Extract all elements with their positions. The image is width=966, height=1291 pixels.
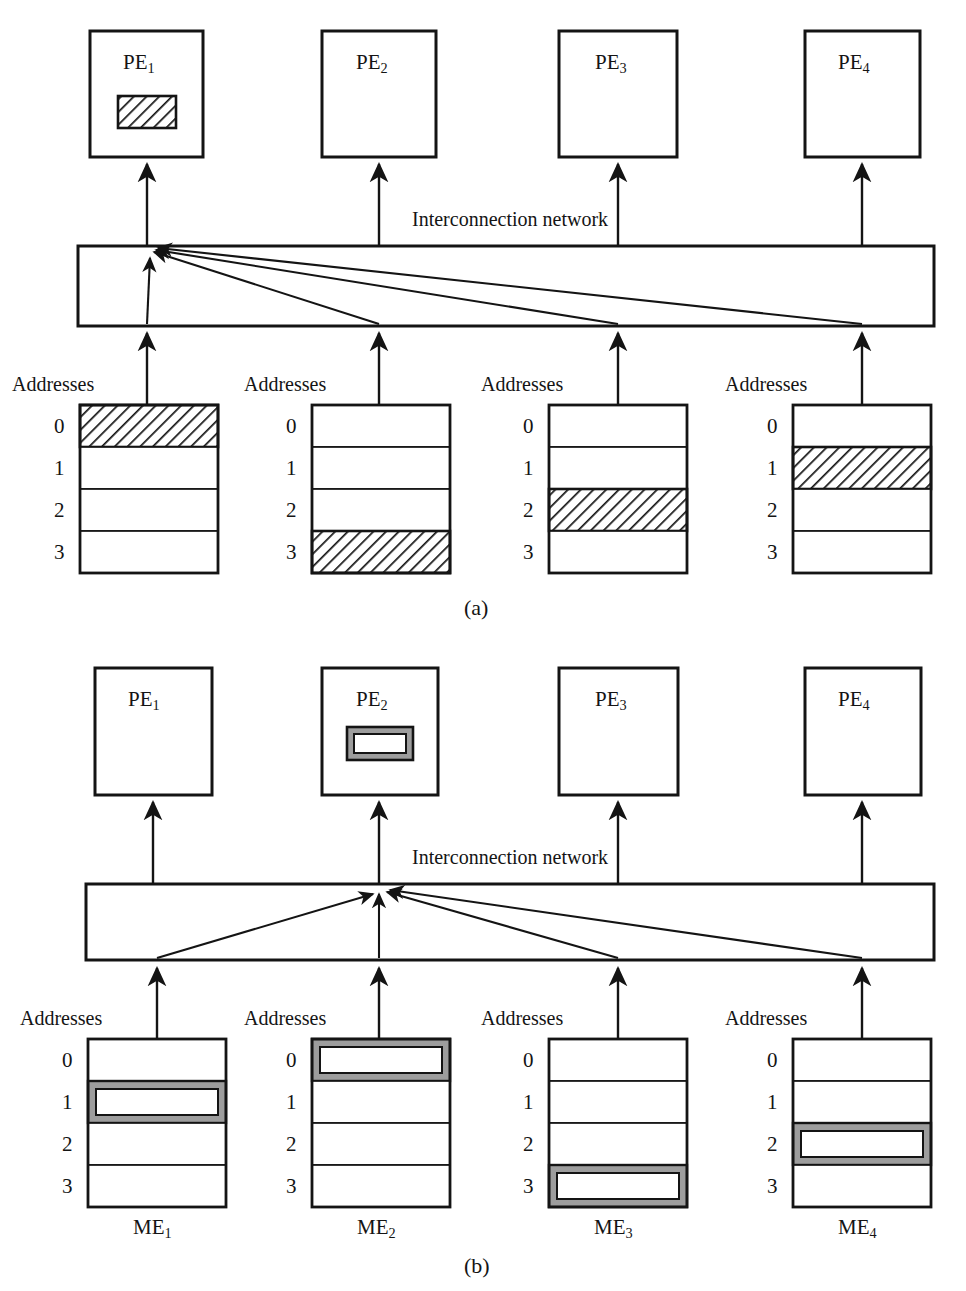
memory-row-a-1-3 <box>80 531 218 573</box>
pe-highlight-block-1 <box>118 96 176 128</box>
memory-module-b-2 <box>312 1039 450 1207</box>
memory-row-b-1-0 <box>88 1039 226 1081</box>
memory-row-a-2-0 <box>312 405 450 447</box>
memory-row-a-1-1 <box>80 447 218 489</box>
memory-row-b-2-2 <box>312 1123 450 1165</box>
pe-box-2 <box>322 31 436 157</box>
memory-row-b-4-2-inner <box>801 1131 923 1157</box>
memory-row-b-2-1 <box>312 1081 450 1123</box>
panel-b <box>86 668 934 1207</box>
pe-box-b-3 <box>559 668 678 795</box>
memory-row-b-4-3 <box>793 1165 931 1207</box>
memory-row-b-3-2 <box>549 1123 687 1165</box>
panel-a-pe-row <box>90 31 920 157</box>
pe-box-3 <box>559 31 677 157</box>
panel-a-network-to-pe-arrows <box>147 164 862 246</box>
memory-module-a-4 <box>793 405 931 573</box>
memory-row-b-4-0 <box>793 1039 931 1081</box>
panel-a <box>78 31 934 573</box>
memory-row-a-3-2 <box>549 489 687 531</box>
memory-row-a-3-1 <box>549 447 687 489</box>
memory-row-a-4-0 <box>793 405 931 447</box>
memory-module-a-3 <box>549 405 687 573</box>
memory-row-b-2-3 <box>312 1165 450 1207</box>
memory-module-b-4 <box>793 1039 931 1207</box>
memory-row-a-3-0 <box>549 405 687 447</box>
memory-row-b-2-0-inner <box>320 1047 442 1073</box>
panel-a-memory-to-network-arrows <box>147 333 862 405</box>
pe-box-b-4 <box>805 668 921 795</box>
panel-b-network-to-pe-arrows <box>153 802 862 884</box>
figure-page: PE1 PE2 PE3 PE4 Interconnection network … <box>0 0 966 1291</box>
memory-row-a-4-1 <box>793 447 931 489</box>
memory-module-a-1 <box>80 405 218 573</box>
figure-canvas <box>0 0 966 1291</box>
memory-row-a-2-3 <box>312 531 450 573</box>
memory-module-b-1 <box>88 1039 226 1207</box>
pe-box-4 <box>805 31 920 157</box>
interconnection-network-box-b <box>86 884 934 960</box>
pe-highlight-block-b-2-inner <box>354 734 406 753</box>
memory-module-a-2 <box>312 405 450 573</box>
memory-row-b-4-1 <box>793 1081 931 1123</box>
memory-module-b-3 <box>549 1039 687 1207</box>
pe-box-1 <box>90 31 203 157</box>
memory-row-a-1-0 <box>80 405 218 447</box>
memory-row-a-2-2 <box>312 489 450 531</box>
memory-row-b-3-1 <box>549 1081 687 1123</box>
pe-box-b-1 <box>95 668 212 795</box>
memory-row-b-1-1-inner <box>96 1089 218 1115</box>
memory-row-b-1-3 <box>88 1165 226 1207</box>
memory-row-a-4-2 <box>793 489 931 531</box>
panel-b-memory-to-network-arrows <box>157 968 862 1039</box>
memory-row-b-3-0 <box>549 1039 687 1081</box>
memory-row-b-3-3-inner <box>557 1173 679 1199</box>
memory-row-a-3-3 <box>549 531 687 573</box>
panel-b-pe-row <box>95 668 921 795</box>
memory-row-a-4-3 <box>793 531 931 573</box>
memory-row-b-1-2 <box>88 1123 226 1165</box>
memory-row-a-1-2 <box>80 489 218 531</box>
memory-row-a-2-1 <box>312 447 450 489</box>
